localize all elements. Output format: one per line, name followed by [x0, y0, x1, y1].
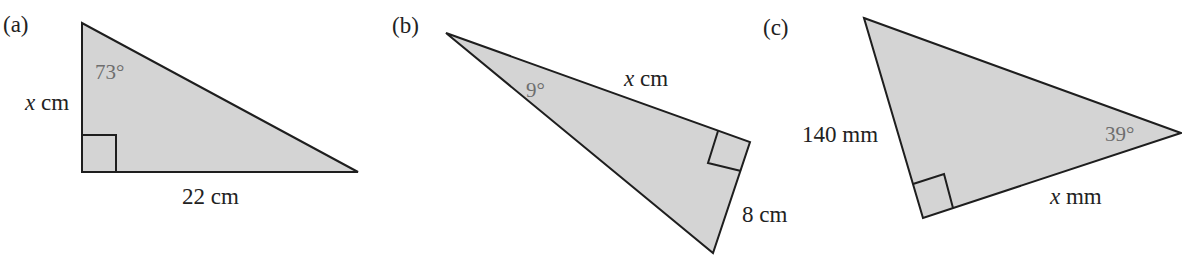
base-label-c-var: x — [1049, 184, 1061, 209]
base-label-a: 22 cm — [182, 184, 239, 209]
angle-label-b: 9° — [526, 78, 545, 102]
panel-b: (b) 9° x cm 8 cm — [392, 13, 787, 253]
triangle-c — [864, 18, 1181, 218]
side-label-a-var: x — [24, 90, 36, 115]
side-label-a: x cm — [24, 90, 69, 115]
panel-label-b: (b) — [392, 13, 419, 38]
angle-label-c: 39° — [1105, 122, 1134, 146]
panel-label-a: (a) — [3, 12, 29, 37]
panel-a: (a) 73° x cm 22 cm — [3, 12, 358, 209]
base-label-c: x mm — [1049, 184, 1102, 209]
panel-c: (c) 39° 140 mm x mm — [763, 15, 1181, 218]
side-label-c: 140 mm — [802, 122, 878, 147]
hyp-label-b-unit: cm — [634, 66, 668, 91]
hyp-label-b-var: x — [623, 66, 635, 91]
base-label-c-unit: mm — [1060, 184, 1102, 209]
side-label-b: 8 cm — [742, 202, 787, 227]
triangles-figure: (a) 73° x cm 22 cm (b) 9° x cm 8 cm (c) … — [0, 0, 1182, 255]
panel-label-c: (c) — [763, 15, 789, 40]
side-label-a-unit: cm — [35, 90, 69, 115]
triangle-a — [82, 23, 358, 172]
triangle-b — [446, 33, 750, 253]
angle-label-a: 73° — [95, 60, 124, 84]
hyp-label-b: x cm — [623, 66, 668, 91]
